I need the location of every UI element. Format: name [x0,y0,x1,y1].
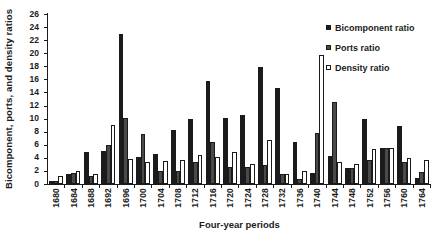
legend-item-density: Density ratio [326,62,415,73]
bar-group-1680 [48,14,65,184]
bar-density-1704 [163,161,168,184]
x-tick-label: 1748 [348,188,357,208]
y-tick-label: 10 [9,113,39,124]
x-tick-label: 1704 [157,188,166,208]
bar-density-1760 [407,158,412,184]
x-tick-label: 1724 [244,188,253,208]
bar-density-1708 [180,160,185,184]
bicomponent-swatch-icon [326,25,331,30]
x-tick-label: 1736 [296,188,305,208]
legend-item-bicomponent: Bicomponent ratio [326,22,415,33]
y-tick-label: 6 [9,139,39,150]
bar-bicomponent-1736 [293,142,298,185]
bar-density-1732 [285,174,290,184]
x-axis-labels: 1680168416881692169617001704170817121716… [48,188,431,216]
y-tick-label: 18 [9,61,39,72]
x-tick-label: 1744 [331,188,340,208]
bar-group-1724 [239,14,256,184]
x-tick-label: 1756 [383,188,392,208]
x-tick-label: 1692 [104,188,113,208]
x-tick-label: 1696 [122,188,131,208]
x-tick-label: 1732 [278,188,287,208]
bar-density-1740 [319,55,324,184]
bar-density-1736 [302,171,307,184]
x-tick-label: 1688 [87,188,96,208]
bar-group-1700 [135,14,152,184]
x-tick-label: 1760 [400,188,409,208]
y-tick-label: 22 [9,35,39,46]
bar-group-1720 [222,14,239,184]
x-axis-title: Four-year periods [48,219,431,230]
y-tick-label: 0 [9,179,39,190]
x-tick-label: 1764 [418,188,427,208]
bar-bicomponent-1732 [275,88,280,184]
x-tick-label: 1684 [70,188,79,208]
ports-swatch-icon [326,45,331,50]
bar-group-1740 [309,14,326,184]
legend: Bicomponent ratio Ports ratio Density ra… [326,22,415,82]
bar-density-1680 [58,176,63,184]
bar-chart: Bicomponent, ports, and density ratios 0… [0,0,433,242]
x-tick-label: 1716 [209,188,218,208]
legend-label-density: Density ratio [335,63,390,73]
bar-density-1720 [232,152,237,184]
y-tick-label: 14 [9,87,39,98]
y-tick-label: 16 [9,74,39,85]
bar-group-1732 [274,14,291,184]
x-tick-label: 1740 [313,188,322,208]
x-tick-label: 1708 [174,188,183,208]
bar-density-1716 [215,157,220,184]
bar-density-1696 [128,159,133,185]
density-swatch-icon [326,65,331,70]
bar-density-1684 [76,171,81,184]
bar-group-1712 [187,14,204,184]
x-tick-label: 1712 [191,188,200,208]
bar-group-1696 [118,14,135,184]
x-tick-label: 1728 [261,188,270,208]
legend-label-ports: Ports ratio [335,43,380,53]
bar-density-1692 [111,125,116,184]
bar-group-1708 [170,14,187,184]
y-tick-label: 12 [9,100,39,111]
bar-density-1728 [267,140,272,184]
bar-group-1692 [100,14,117,184]
bar-density-1748 [354,164,359,184]
bar-group-1728 [257,14,274,184]
bar-group-1716 [205,14,222,184]
bar-density-1724 [250,164,255,184]
y-tick-label: 8 [9,126,39,137]
bar-group-1704 [152,14,169,184]
y-tick-label: 20 [9,48,39,59]
x-tick-label: 1700 [139,188,148,208]
bar-group-1688 [83,14,100,184]
bar-group-1736 [292,14,309,184]
x-tick-label: 1680 [52,188,61,208]
bar-density-1744 [337,162,342,184]
bar-density-1700 [145,162,150,184]
bar-density-1712 [198,155,203,184]
bar-group-1764 [414,14,431,184]
legend-label-bicomponent: Bicomponent ratio [335,23,415,33]
x-tick-label: 1752 [366,188,375,208]
y-tick-label: 2 [9,165,39,176]
bar-density-1756 [389,148,394,184]
legend-item-ports: Ports ratio [326,42,415,53]
y-axis: 02468101214161820222426 [0,14,47,184]
bar-density-1752 [372,149,377,184]
bar-group-1684 [65,14,82,184]
y-tick-label: 26 [9,9,39,20]
x-tick-label: 1720 [226,188,235,208]
y-tick-label: 24 [9,22,39,33]
y-tick-label: 4 [9,152,39,163]
bar-density-1688 [93,174,98,184]
bar-density-1764 [424,160,429,184]
